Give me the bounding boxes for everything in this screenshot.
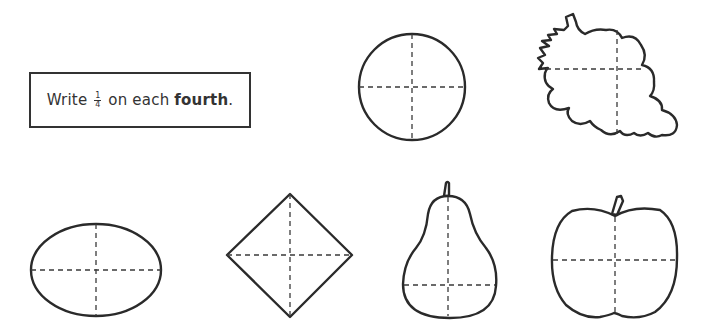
shapes-canvas — [0, 0, 717, 333]
diamond-shape[interactable] — [227, 194, 352, 317]
apple-shape[interactable] — [552, 196, 677, 317]
grapes-shape[interactable] — [538, 14, 677, 137]
circle-shape[interactable] — [359, 34, 465, 140]
pear-shape[interactable] — [403, 182, 496, 318]
oval-shape[interactable] — [31, 224, 161, 316]
